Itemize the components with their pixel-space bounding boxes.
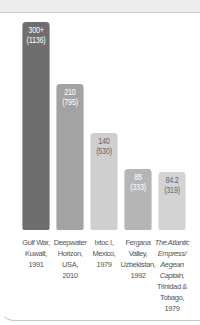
category-label-line: Valley, [119, 248, 157, 259]
category-label-4: FerganaValley,Uzbekistan,1992 [119, 237, 157, 281]
category-label-line: Tobago, 1979 [153, 292, 191, 314]
category-label-line: Gulf War, [17, 237, 55, 248]
category-label-line: Ixtoc I, [85, 237, 123, 248]
header-band [0, 0, 200, 13]
bar-2: 210(795) [56, 84, 83, 230]
bar-secondary-label: (333) [124, 182, 151, 192]
category-label-line: Kuwait, [17, 248, 55, 259]
bar-value-label: 300+ [22, 25, 49, 35]
category-label-line: Trinidad & [153, 281, 191, 292]
bar-value-label: 210 [56, 87, 83, 97]
bar-value-label: 88 [124, 172, 151, 182]
category-label-line: 1991 [17, 259, 55, 270]
bar-3: 140(530) [90, 133, 117, 230]
bar-secondary-label: (1136) [22, 35, 49, 45]
category-label-line: USA, [51, 259, 89, 270]
category-label-line: Mexico, [85, 248, 123, 259]
category-label-5: The AtlanticEmpress/AegeanCaptain,Trinid… [153, 237, 191, 314]
category-label-2: DeepwaterHorizon,USA,2010 [51, 237, 89, 281]
category-label-line: Captain, [153, 270, 191, 281]
category-label-line: 1979 [85, 259, 123, 270]
category-label-line: The Atlantic [153, 237, 191, 248]
bar-value-label: 84.2 [158, 175, 185, 185]
category-label-3: Ixtoc I,Mexico,1979 [85, 237, 123, 270]
category-label-line: Fergana [119, 237, 157, 248]
bar-secondary-label: (795) [56, 97, 83, 107]
bar-secondary-label: (319) [158, 185, 185, 195]
bar-value-label: 140 [90, 136, 117, 146]
category-label-line: Empress/ [153, 248, 191, 259]
category-label-line: Deepwater [51, 237, 89, 248]
bar-4: 88(333) [124, 169, 151, 230]
bar-secondary-label: (530) [90, 146, 117, 156]
category-label-line: 1992 [119, 270, 157, 281]
category-label-1: Gulf War,Kuwait,1991 [17, 237, 55, 270]
category-label-line: Uzbekistan, [119, 259, 157, 270]
category-label-line: Aegean [153, 259, 191, 270]
bar-1: 300+(1136) [22, 22, 49, 230]
bar-5: 84.2(319) [158, 172, 185, 230]
category-label-line: 2010 [51, 270, 89, 281]
category-label-line: Horizon, [51, 248, 89, 259]
